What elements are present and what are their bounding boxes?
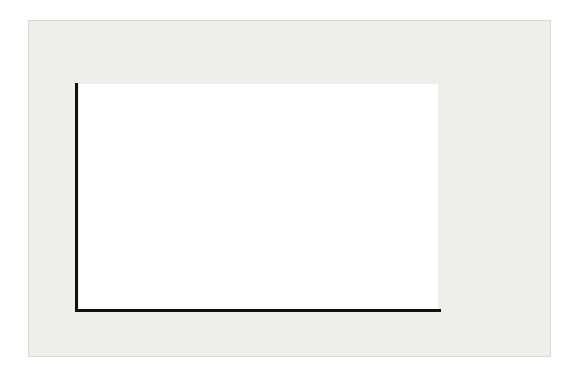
stacked-area-series [79, 84, 438, 310]
chart-plot-area [79, 84, 438, 310]
y-axis-line [75, 83, 78, 312]
x-axis-ticks [79, 315, 438, 331]
x-axis-line [75, 309, 441, 312]
